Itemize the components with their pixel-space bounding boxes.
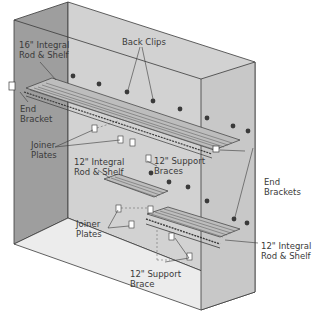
joiner-plate xyxy=(129,221,134,228)
joiner-plate xyxy=(148,206,153,213)
support-brace xyxy=(146,155,151,162)
joiner-plate xyxy=(92,125,97,132)
label-bottom-shelf: 12" Integral Rod & Shelf xyxy=(261,241,311,261)
right-wall xyxy=(201,62,255,310)
label-end-brackets: End Brackets xyxy=(264,177,301,197)
end-bracket-left xyxy=(9,82,15,90)
label-support-braces: 12" Support Braces xyxy=(154,156,205,176)
support-brace xyxy=(130,139,135,146)
label-back-clips: Back Clips xyxy=(122,37,166,47)
label-mid-shelf: 12" Integral Rod & Shelf xyxy=(74,157,124,177)
label-support-brace: 12" Support Brace xyxy=(130,269,181,289)
joiner-plate xyxy=(116,205,121,212)
label-top-shelf: 16" Integral Rod & Shelf xyxy=(19,40,69,60)
end-bracket-right xyxy=(213,146,219,152)
label-joiner-plates-top: Joiner Plates xyxy=(31,140,57,160)
label-joiner-plates-bottom: Joiner Plates xyxy=(76,219,102,239)
label-end-bracket: End Bracket xyxy=(20,104,52,124)
support-brace xyxy=(169,233,174,240)
joiner-plate xyxy=(118,136,123,143)
